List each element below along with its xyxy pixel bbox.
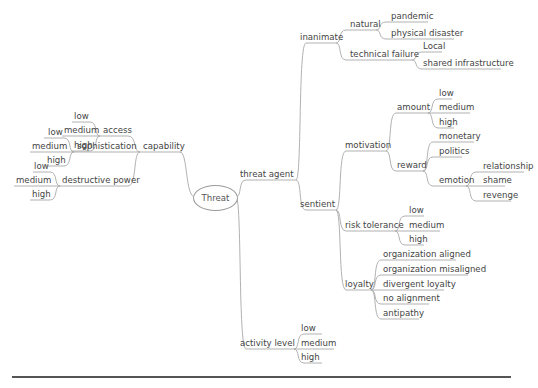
node-sophistication-medium[interactable]: medium [30,141,69,152]
node-shame[interactable]: shame [481,175,514,186]
node-destructive-power-low[interactable]: low [32,161,51,172]
node-amount-medium[interactable]: medium [437,102,476,113]
node-technical-failure[interactable]: technical failure [348,49,421,60]
node-activity-level-low[interactable]: low [299,323,318,334]
node-loyalty[interactable]: loyalty [343,279,376,290]
node-divergent-loyalty[interactable]: divergent loyalty [381,279,458,290]
node-organization-misaligned[interactable]: organization misaligned [381,264,488,275]
node-shared-infrastructure[interactable]: shared infrastructure [421,58,516,69]
node-pandemic[interactable]: pandemic [389,11,435,22]
node-reward[interactable]: reward [395,160,429,171]
node-risk-tolerance-high[interactable]: high [407,234,430,245]
node-destructive-power-high[interactable]: high [30,189,53,200]
node-risk-tolerance[interactable]: risk tolerance [343,220,406,231]
node-access-low[interactable]: low [72,111,91,122]
node-destructive-power-medium[interactable]: medium [14,175,53,186]
node-relationship[interactable]: relationship [481,161,536,172]
root-node-threat[interactable]: Threat [193,185,238,211]
node-emotion[interactable]: emotion [437,175,476,186]
node-politics[interactable]: politics [437,146,471,157]
node-activity-level[interactable]: activity level [238,338,297,349]
node-access[interactable]: access [101,125,134,136]
node-risk-tolerance-low[interactable]: low [407,205,426,216]
node-amount-high[interactable]: high [437,117,460,128]
node-sophistication[interactable]: sophistication [75,141,139,152]
node-risk-tolerance-medium[interactable]: medium [407,220,446,231]
node-monetary[interactable]: monetary [437,131,483,142]
node-antipathy[interactable]: antipathy [381,308,426,319]
node-revenge[interactable]: revenge [481,190,520,201]
node-local[interactable]: Local [421,41,447,52]
node-capability[interactable]: capability [141,141,187,152]
node-amount-low[interactable]: low [437,88,456,99]
mind-map-canvas: Threat capability access low medium high… [0,0,538,388]
node-sophistication-low[interactable]: low [46,127,65,138]
node-sentient[interactable]: sentient [298,199,337,210]
node-motivation[interactable]: motivation [343,140,393,151]
node-threat-agent[interactable]: threat agent [238,169,296,180]
node-inanimate[interactable]: inanimate [298,32,345,43]
node-no-alignment[interactable]: no alignment [381,293,442,304]
node-destructive-power[interactable]: destructive power [60,175,142,186]
bottom-divider [12,376,511,378]
node-activity-level-medium[interactable]: medium [299,338,338,349]
node-organization-aligned[interactable]: organization aligned [381,249,473,260]
node-access-medium[interactable]: medium [62,125,101,136]
node-physical-disaster[interactable]: physical disaster [389,28,465,39]
node-natural[interactable]: natural [348,19,383,30]
node-activity-level-high[interactable]: high [299,352,322,363]
node-amount[interactable]: amount [395,102,432,113]
